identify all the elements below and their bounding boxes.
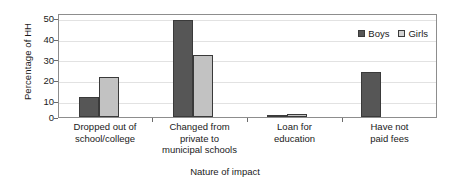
bar-boys-2 xyxy=(173,20,193,117)
y-tick-label-0: 0 xyxy=(30,113,54,123)
chart-legend: Boys Girls xyxy=(356,27,430,40)
legend-label-girls: Girls xyxy=(408,28,428,39)
light-gray-swatch-icon xyxy=(398,30,405,37)
x-category-label-1: Dropped out ofschool/college xyxy=(58,121,152,144)
x-category-label-line: school/college xyxy=(58,133,152,145)
x-axis-title: Nature of impact xyxy=(0,166,450,177)
bar-girls-1 xyxy=(99,77,119,117)
legend-item-girls: Girls xyxy=(398,28,428,39)
y-tick-label-10: 10 xyxy=(30,97,54,107)
dark-gray-swatch-icon xyxy=(358,30,365,37)
x-category-label-2: Changed fromprivate tomunicipal schools xyxy=(152,121,247,156)
y-tick-label-40: 40 xyxy=(30,35,54,45)
x-category-label-line: municipal schools xyxy=(152,144,247,156)
bar-boys-3 xyxy=(267,115,287,117)
y-tick-mark-0 xyxy=(54,118,58,119)
y-tick-label-20: 20 xyxy=(30,76,54,86)
legend-label-boys: Boys xyxy=(368,28,389,39)
x-category-label-4: Have notpaid fees xyxy=(342,121,437,144)
x-category-label-line: Have not xyxy=(342,121,437,133)
plot-area: Boys Girls xyxy=(58,14,437,118)
bar-chart-figure: Percentage of HH 50 40 30 20 10 0 Boys G… xyxy=(0,0,450,189)
x-category-label-3: Loan foreducation xyxy=(247,121,342,144)
bar-girls-2 xyxy=(193,55,213,117)
y-tick-label-50: 50 xyxy=(30,14,54,24)
bar-girls-3 xyxy=(287,114,307,117)
x-category-label-line: private to xyxy=(152,133,247,145)
y-tick-label-30: 30 xyxy=(30,56,54,66)
legend-item-boys: Boys xyxy=(358,28,389,39)
bar-boys-1 xyxy=(79,97,99,117)
x-category-label-line: Changed from xyxy=(152,121,247,133)
x-category-label-line: paid fees xyxy=(342,133,437,145)
bar-boys-4 xyxy=(361,72,381,117)
x-category-label-line: Loan for xyxy=(247,121,342,133)
x-category-label-line: education xyxy=(247,133,342,145)
x-category-label-line: Dropped out of xyxy=(58,121,152,133)
